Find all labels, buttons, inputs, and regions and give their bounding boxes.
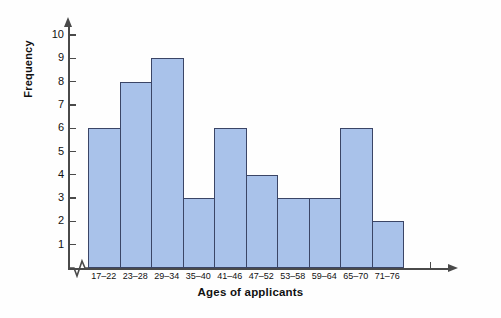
y-tick-label-7: 7 xyxy=(38,98,64,110)
bar xyxy=(277,198,310,268)
y-tick-label-3: 3 xyxy=(38,191,64,203)
y-axis-title: Frequency xyxy=(22,14,34,124)
y-axis-line xyxy=(68,26,70,269)
bar xyxy=(183,198,216,268)
y-tick-label-9: 9 xyxy=(38,51,64,63)
y-tick-10 xyxy=(69,34,76,35)
y-tick-4 xyxy=(69,174,76,175)
x-axis-extra-tick xyxy=(430,262,431,269)
y-tick-6 xyxy=(69,128,76,129)
bar xyxy=(309,198,342,268)
y-tick-2 xyxy=(69,221,76,222)
y-axis-arrow-icon xyxy=(64,17,72,27)
bar xyxy=(372,221,405,268)
y-tick-3 xyxy=(69,197,76,198)
x-axis-arrow-icon xyxy=(448,264,458,272)
y-tick-label-6: 6 xyxy=(38,121,64,133)
y-tick-label-8: 8 xyxy=(38,75,64,87)
bar xyxy=(120,82,153,268)
y-tick-label-1: 1 xyxy=(38,238,64,250)
y-tick-7 xyxy=(69,104,76,105)
x-axis-title: Ages of applicants xyxy=(0,286,501,298)
y-tick-label-5: 5 xyxy=(38,145,64,157)
histogram-figure: Frequency 12345678910 17–2223–2829–3435–… xyxy=(0,0,501,318)
y-tick-9 xyxy=(69,58,76,59)
bar xyxy=(246,175,279,268)
bar xyxy=(88,128,121,268)
y-tick-label-10: 10 xyxy=(38,28,64,40)
y-tick-8 xyxy=(69,81,76,82)
bar xyxy=(214,128,247,268)
y-tick-label-4: 4 xyxy=(38,168,64,180)
bar xyxy=(340,128,373,268)
y-tick-5 xyxy=(69,151,76,152)
y-tick-label-2: 2 xyxy=(38,214,64,226)
x-tick-label: 71–76 xyxy=(368,271,408,281)
y-tick-1 xyxy=(69,244,76,245)
bar xyxy=(151,58,184,268)
x-axis-line xyxy=(68,268,450,270)
